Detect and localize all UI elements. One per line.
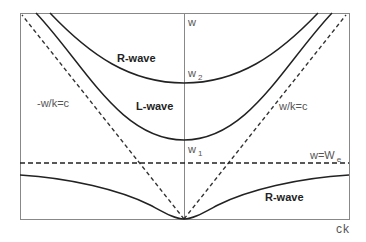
- cyclotron-label: w=We: [310, 150, 341, 164]
- dispersion-diagram: [0, 0, 366, 242]
- cyclotron-main: w=W: [310, 149, 335, 161]
- w1-label: w1: [188, 144, 202, 158]
- w2-main: w: [188, 67, 196, 79]
- upper-r-wave-label: R-wave: [117, 53, 156, 64]
- right-asymptote-label: w/k=c: [279, 101, 307, 112]
- l-wave-label: L-wave: [136, 101, 173, 112]
- w1-sub: 1: [198, 149, 202, 158]
- w2-sub: 2: [198, 73, 202, 82]
- left-asymptote-label: -w/k=c: [37, 98, 69, 109]
- y-axis-label: w: [188, 17, 196, 28]
- lower-r-wave-label: R-wave: [265, 192, 304, 203]
- cyclotron-sub: e: [337, 155, 341, 164]
- x-axis-label: ck: [336, 223, 350, 235]
- w2-label: w2: [188, 68, 202, 82]
- w1-main: w: [188, 143, 196, 155]
